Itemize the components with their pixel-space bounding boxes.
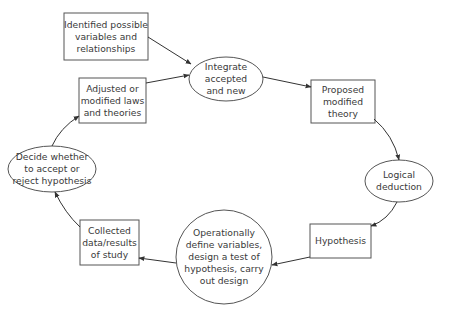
edge-collected-to-decide: [55, 192, 80, 227]
edge-adjusted-to-integrate: [146, 75, 189, 83]
integrate-label: Integrate accepted and new: [189, 57, 263, 101]
proposed-label: Proposed modified theory: [311, 80, 375, 123]
edge-integrate-to-proposed: [263, 77, 311, 87]
logical-label: Logical deduction: [365, 160, 433, 202]
edge-proposed-to-logical: [374, 119, 399, 160]
edge-identified-to-integrate: [148, 37, 191, 64]
hypothesis-label: Hypothesis: [310, 224, 371, 258]
identified-label: Identified possible variables and relati…: [64, 13, 148, 60]
collected-label: Collected data/results of study: [80, 220, 139, 265]
edge-decide-to-adjusted: [52, 116, 79, 146]
operationally-label: Operationally define variables, design a…: [176, 210, 272, 304]
edge-operationally-to-collected: [139, 258, 176, 263]
edge-hypothesis-to-operationally: [272, 257, 310, 265]
edge-logical-to-hypothesis: [371, 202, 397, 226]
adjusted-label: Adjusted or modified laws and theories: [79, 78, 146, 123]
decide-label: Decide whether to accept or reject hypot…: [8, 146, 96, 192]
